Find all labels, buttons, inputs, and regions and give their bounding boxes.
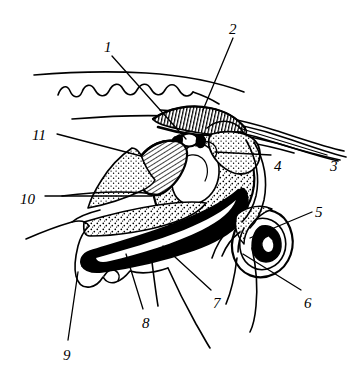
callout-label-4: 4 xyxy=(274,159,282,174)
callout-label-11: 11 xyxy=(32,128,46,143)
callout-label-10: 10 xyxy=(20,192,35,207)
callout-label-2: 2 xyxy=(229,22,237,37)
callout-label-6: 6 xyxy=(304,296,312,311)
callout-leader-9 xyxy=(68,272,78,340)
figure-linework xyxy=(0,0,360,373)
callout-label-8: 8 xyxy=(142,316,150,331)
callout-label-7: 7 xyxy=(213,296,221,311)
callout-label-3: 3 xyxy=(330,159,338,174)
callout-label-9: 9 xyxy=(63,348,71,363)
callout-leader-2 xyxy=(203,38,233,110)
anatomical-figure: 1 2 3 4 5 6 7 8 9 10 11 xyxy=(0,0,360,373)
callout-leader-11 xyxy=(57,134,141,156)
callout-label-5: 5 xyxy=(315,205,323,220)
callout-label-1: 1 xyxy=(104,40,112,55)
callout-leader-1 xyxy=(112,56,186,139)
